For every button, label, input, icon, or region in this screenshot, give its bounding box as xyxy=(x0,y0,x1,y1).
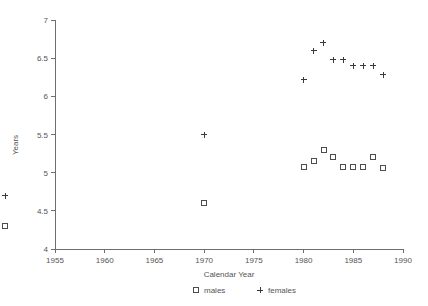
data-point-female xyxy=(2,193,8,199)
data-point-female xyxy=(380,72,386,78)
x-tick-label: 1975 xyxy=(245,256,263,265)
data-point-female xyxy=(370,63,376,69)
legend-marker-females xyxy=(257,287,263,293)
data-point-male xyxy=(351,164,356,169)
x-tick-label: 1970 xyxy=(195,256,213,265)
data-point-female xyxy=(301,77,307,83)
data-point-male xyxy=(301,164,306,169)
y-axis: 44.555.566.57 xyxy=(37,16,55,254)
y-tick-label: 5 xyxy=(44,169,49,178)
legend-marker-males xyxy=(194,288,199,293)
data-points-layer xyxy=(2,40,386,229)
data-point-male xyxy=(381,166,386,171)
data-point-female xyxy=(311,48,317,54)
x-axis: 19551960196519701975198019851990 xyxy=(46,249,412,265)
data-point-male xyxy=(311,158,316,163)
x-axis-title: Calendar Year xyxy=(204,270,255,279)
y-tick-label: 6.5 xyxy=(37,54,49,63)
legend-label-males: males xyxy=(204,286,225,295)
data-point-male xyxy=(321,147,326,152)
data-point-female xyxy=(201,132,207,138)
y-tick-label: 6 xyxy=(44,92,49,101)
data-point-male xyxy=(202,201,207,206)
data-point-male xyxy=(361,164,366,169)
data-point-female xyxy=(340,57,346,63)
data-point-female xyxy=(360,63,366,69)
y-tick-label: 7 xyxy=(44,16,49,25)
legend-label-females: females xyxy=(268,286,296,295)
x-tick-label: 1990 xyxy=(394,256,412,265)
data-point-male xyxy=(341,164,346,169)
y-tick-label: 5.5 xyxy=(37,131,49,140)
y-tick-label: 4 xyxy=(44,245,49,254)
plot-canvas: 44.555.566.57 19551960196519701975198019… xyxy=(0,0,428,306)
data-point-female xyxy=(330,57,336,63)
y-tick-label: 4.5 xyxy=(37,207,49,216)
x-tick-label: 1980 xyxy=(295,256,313,265)
x-tick-label: 1960 xyxy=(96,256,114,265)
data-point-male xyxy=(331,155,336,160)
x-tick-label: 1965 xyxy=(146,256,164,265)
data-point-female xyxy=(350,63,356,69)
data-point-male xyxy=(3,224,8,229)
data-point-female xyxy=(320,40,326,46)
data-point-male xyxy=(371,155,376,160)
x-tick-label: 1955 xyxy=(46,256,64,265)
chart-legend: malesfemales xyxy=(194,286,297,295)
x-tick-label: 1985 xyxy=(344,256,362,265)
scatter-plot-figure: 44.555.566.57 19551960196519701975198019… xyxy=(0,0,428,306)
y-axis-title: Years xyxy=(11,135,20,155)
